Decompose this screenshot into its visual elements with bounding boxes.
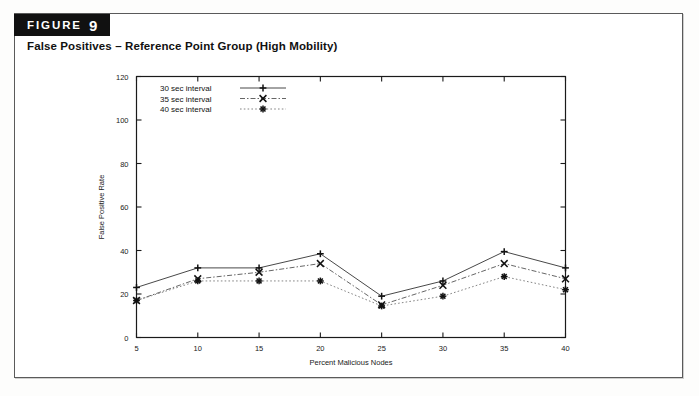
figure-caption: False Positives – Reference Point Group … xyxy=(27,40,338,52)
figure-badge-word: FIGURE xyxy=(27,19,82,31)
figure-badge-number: 9 xyxy=(89,17,97,34)
figure-badge: FIGURE 9 xyxy=(14,14,110,36)
figure-container xyxy=(14,13,683,378)
